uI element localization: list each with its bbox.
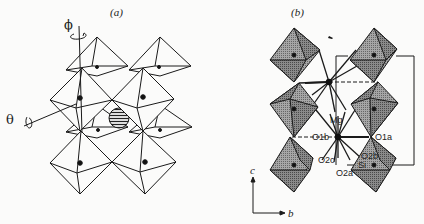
panel-a-label: (a) (110, 6, 123, 19)
label-si: Si (358, 160, 366, 170)
small-arrow-mark (328, 36, 333, 39)
octahedron-b-middle-right (351, 82, 398, 137)
figure-canvas: (a) (0, 0, 424, 224)
mg-atom-center (335, 134, 341, 140)
theta-label: θ (6, 112, 14, 127)
panel-a: (a) (6, 6, 192, 194)
b-axis-arrow-icon (280, 211, 285, 215)
octahedron-back-top-left (66, 37, 128, 76)
octahedron-b-bottom-left (270, 137, 313, 192)
octahedron-front-bottom-left (50, 131, 112, 194)
label-o1a: O1a (375, 132, 392, 142)
c-axis-label: c (250, 164, 255, 176)
panel-b: (b) (250, 6, 414, 219)
octahedron-b-middle-left (270, 83, 318, 137)
c-axis-arrow-icon (251, 177, 255, 182)
label-o2c: O2c (318, 155, 335, 165)
octahedron-back-top-right (129, 37, 191, 76)
octahedron-front-bottom-right (112, 131, 176, 194)
mg-atom-top (326, 79, 332, 85)
label-mg: Mg (330, 115, 343, 125)
theta-rotation-arrow-icon (26, 117, 32, 128)
b-axis-label: b (288, 207, 294, 219)
octahedron-b-top-left (270, 28, 320, 82)
label-o2a: O2a (336, 168, 353, 178)
panel-b-label: (b) (291, 6, 304, 19)
crystal-axes (251, 177, 285, 215)
octahedron-b-top-right (350, 28, 397, 82)
phi-label: ϕ (64, 17, 73, 32)
label-o1b: O1b (312, 132, 329, 142)
